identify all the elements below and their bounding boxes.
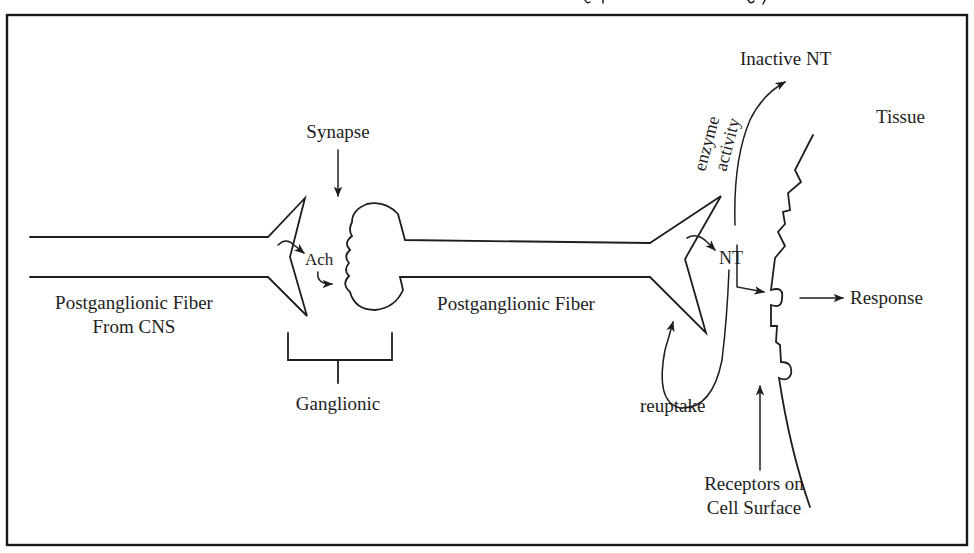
ach-binding-arrow [318,272,332,284]
diagram-svg: Postganglionic Fiber From CNS Synapse Ac… [0,0,974,553]
label-ach: Ach [305,250,334,269]
label-ganglionic: Ganglionic [296,393,380,414]
label-fiber-from-cns-line1: Postganglionic Fiber [55,292,213,313]
reuptake-arrow [662,270,729,408]
label-response: Response [850,287,923,308]
label-tissue: Tissue [876,106,925,127]
tissue-cell-membrane [771,135,813,507]
label-nt: NT [719,248,743,268]
figure-frame [7,15,967,545]
ganglionic-bracket [288,333,392,383]
label-receptors-line2: Cell Surface [707,497,801,518]
label-postganglionic-fiber: Postganglionic Fiber [437,293,595,314]
postganglionic-terminal [650,196,721,333]
label-fiber-from-cns-line2: From CNS [93,316,176,337]
clipped-header-text [585,0,765,4]
label-receptors-line1: Receptors on [704,473,804,494]
label-inactive-nt: Inactive NT [740,48,832,69]
label-synapse: Synapse [306,121,369,142]
diagram-canvas: Postganglionic Fiber From CNS Synapse Ac… [0,0,974,553]
enzyme-activity-arrow [735,82,785,225]
label-reuptake: reuptake [640,395,705,416]
